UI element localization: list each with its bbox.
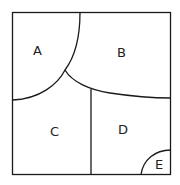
region-label-a: A bbox=[33, 43, 42, 58]
boundary-b bbox=[65, 70, 171, 98]
region-label-b: B bbox=[117, 45, 126, 60]
region-label-e: E bbox=[155, 157, 163, 172]
region-diagram: A B C D E bbox=[0, 0, 180, 185]
boundary-a bbox=[13, 13, 81, 101]
region-label-c: C bbox=[50, 124, 59, 139]
region-label-d: D bbox=[118, 122, 128, 137]
